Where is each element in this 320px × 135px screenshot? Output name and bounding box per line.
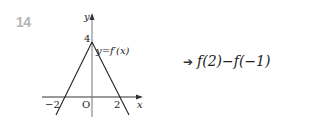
x-tick-right-label: 2: [114, 99, 120, 110]
x-axis-label: x: [137, 99, 143, 110]
y-axis-label: y: [83, 11, 90, 22]
right-arrow-icon: ➔: [183, 55, 193, 69]
y-axis-arrow-icon: [90, 13, 95, 20]
peak-value-label: 4: [84, 33, 90, 44]
answer-line: ➔f(2)−f(−1): [183, 53, 271, 69]
answer-expression: f(2)−f(−1): [197, 53, 271, 69]
origin-label: O: [82, 99, 90, 110]
x-tick-left-label: −2: [45, 99, 60, 110]
curve-label: y=f′(x): [95, 45, 130, 56]
